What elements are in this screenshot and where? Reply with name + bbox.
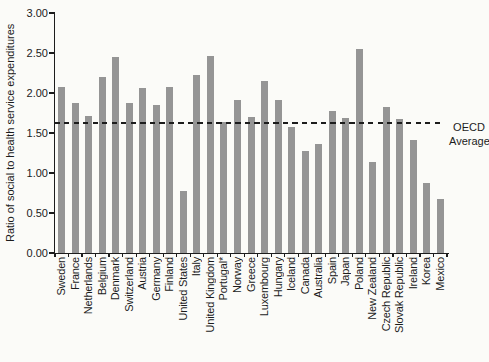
y-tick: [49, 212, 54, 213]
y-tick-label: 2.50: [22, 47, 48, 59]
y-tick: [49, 12, 54, 13]
x-label: New Zealand: [366, 257, 379, 320]
bar-poland: [356, 49, 363, 253]
x-label: Iceland: [285, 257, 298, 291]
bar-canada: [302, 151, 309, 253]
oecd-average-label-line1: OECD: [449, 121, 489, 135]
y-tick-label: 0.50: [22, 207, 48, 219]
y-axis-line: [54, 12, 55, 253]
y-tick-label: 3.00: [22, 7, 48, 19]
x-label: Belgium: [96, 257, 109, 295]
x-label: Italy: [190, 257, 203, 276]
y-tick-label: 1.00: [22, 167, 48, 179]
bar-korea: [423, 183, 430, 253]
bar-czech-republic: [383, 107, 390, 253]
oecd-average-line: [55, 122, 443, 124]
y-tick-label: 1.50: [22, 127, 48, 139]
x-label: United Kingdom: [204, 257, 217, 332]
x-label: Poland: [353, 257, 366, 290]
x-label: Canada: [299, 257, 312, 294]
x-label: France: [69, 257, 82, 290]
x-label: Sweden: [55, 257, 68, 296]
x-label: Czech Republic: [380, 257, 393, 331]
bar-iceland: [288, 127, 295, 253]
x-label: Slovak Republic: [393, 257, 406, 333]
x-label: Ireland: [407, 257, 420, 289]
bar-new-zealand: [369, 162, 376, 253]
x-label: Switzerland: [123, 257, 136, 312]
oecd-average-label-line2: Average: [449, 135, 489, 149]
bar-france: [72, 103, 79, 253]
oecd-average-label: OECD Average: [449, 121, 489, 148]
y-tick: [49, 52, 54, 53]
x-label: Mexico: [434, 257, 447, 291]
y-tick-label: 0.00: [22, 247, 48, 259]
x-label: Korea: [420, 257, 433, 285]
bar-austria: [139, 88, 146, 253]
bar-mexico: [437, 199, 444, 253]
bar-greece: [248, 117, 255, 253]
x-label: Luxembourg: [258, 257, 271, 316]
x-label: Greece: [245, 257, 258, 292]
y-tick: [49, 92, 54, 93]
bar-germany: [153, 105, 160, 253]
x-label: Spain: [326, 257, 339, 284]
x-label: Denmark: [109, 257, 122, 300]
bar-united-states: [180, 191, 187, 253]
y-tick: [49, 132, 54, 133]
x-label: Hungary: [272, 257, 285, 297]
bar-united-kingdom: [207, 56, 214, 253]
x-label: Netherlands: [82, 257, 95, 314]
bar-denmark: [112, 57, 119, 253]
bar-belgium: [99, 77, 106, 253]
x-label: Germany: [150, 257, 163, 301]
bar-luxembourg: [261, 81, 268, 253]
bar-switzerland: [126, 103, 133, 253]
x-label: Norway: [231, 257, 244, 293]
x-label: United States: [177, 257, 190, 320]
bar-italy: [193, 75, 200, 253]
x-label: Portugal*: [217, 257, 230, 300]
bar-chart-figure: Ratio of social to health service expend…: [0, 0, 489, 362]
bar-spain: [329, 111, 336, 253]
y-tick: [49, 252, 54, 253]
x-label: Japan: [339, 257, 352, 286]
y-tick: [49, 172, 54, 173]
x-label: Finland: [163, 257, 176, 292]
x-label: Austria: [136, 257, 149, 290]
bar-portugal: [220, 122, 227, 253]
bar-ireland: [410, 140, 417, 253]
bar-japan: [342, 118, 349, 253]
bar-sweden: [58, 87, 65, 253]
y-tick-label: 2.00: [22, 87, 48, 99]
bar-slovak-republic: [396, 119, 403, 253]
bar-netherlands: [85, 116, 92, 253]
bar-finland: [166, 87, 173, 253]
y-axis-title: Ratio of social to health service expend…: [4, 13, 16, 253]
bar-australia: [315, 144, 322, 253]
x-label: Australia: [312, 257, 325, 298]
